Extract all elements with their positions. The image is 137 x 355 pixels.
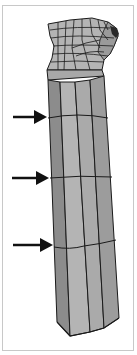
- arrow-icon: [13, 238, 53, 252]
- column-body: [47, 70, 119, 336]
- arrow-icon: [12, 171, 49, 185]
- head-mesh: [47, 18, 119, 70]
- arrow-icon: [13, 110, 47, 124]
- column-model-figure: [0, 0, 137, 355]
